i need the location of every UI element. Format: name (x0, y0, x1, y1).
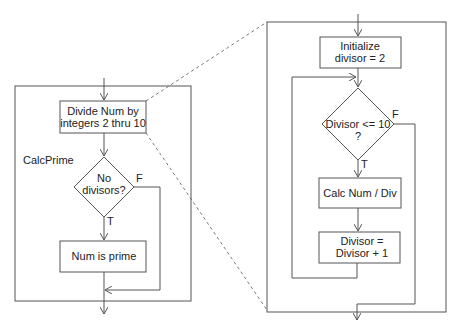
divisor-decision-line1: Divisor <= 10 (326, 118, 391, 130)
divide-step-line2: integers 2 thru 10 (60, 117, 146, 129)
decision-line1: No (97, 172, 111, 184)
num-is-prime-label: Num is prime (72, 250, 137, 262)
true-label: T (107, 215, 114, 227)
loop-exit-path (357, 124, 415, 320)
calcprime-title: CalcPrime (23, 154, 74, 166)
zoom-connector-top (146, 22, 267, 101)
decision-line2: divisors? (82, 184, 125, 196)
calc-label: Calc Num / Div (323, 187, 397, 199)
divide-step-line1: Divide Num by (67, 105, 139, 117)
initialize-line2: divisor = 2 (335, 52, 385, 64)
zoom-connector-bottom (146, 133, 267, 310)
increment-line1: Divisor = (340, 235, 383, 247)
right-false-label: F (392, 108, 399, 120)
false-label: F (136, 172, 143, 184)
right-true-label: T (361, 158, 368, 170)
initialize-line1: Initialize (340, 40, 380, 52)
flowchart-canvas: Divide Num by integers 2 thru 10 CalcPri… (0, 0, 460, 336)
left-flowchart: Divide Num by integers 2 thru 10 CalcPri… (15, 78, 191, 314)
divisor-decision-line2: ? (355, 130, 361, 142)
increment-line2: Divisor + 1 (336, 247, 388, 259)
right-flowchart: Initialize divisor = 2 Divisor <= 10 ? F… (267, 14, 446, 320)
